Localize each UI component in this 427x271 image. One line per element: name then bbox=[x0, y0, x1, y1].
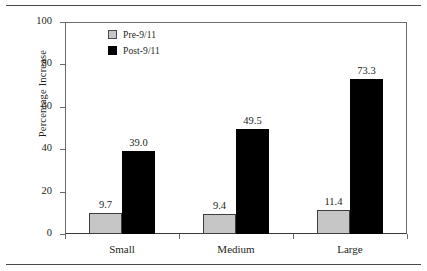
bar-value-label: 49.5 bbox=[228, 115, 278, 126]
y-tick-mark bbox=[60, 107, 65, 108]
legend-label-post: Post-9/11 bbox=[123, 46, 160, 56]
y-tick-label: 80 bbox=[42, 57, 53, 68]
y-tick-mark bbox=[60, 64, 65, 65]
y-tick-label: 40 bbox=[42, 142, 53, 153]
y-tick-mark bbox=[60, 22, 65, 23]
x-tick-mark bbox=[293, 234, 294, 239]
legend-item-post: Post-9/11 bbox=[108, 44, 160, 57]
x-category-label-medium: Medium bbox=[186, 243, 286, 255]
legend-item-pre: Pre-9/11 bbox=[108, 28, 160, 41]
bar-value-label: 39.0 bbox=[114, 137, 164, 148]
bar-large-pre bbox=[317, 210, 350, 234]
x-category-label-small: Small bbox=[72, 243, 172, 255]
bar-small-pre bbox=[89, 213, 122, 234]
bar-large-post bbox=[350, 79, 383, 234]
bar-value-label: 73.3 bbox=[342, 65, 392, 76]
x-category-label-large: Large bbox=[300, 243, 400, 255]
bottom-horizontal-rule bbox=[6, 264, 421, 265]
x-tick-mark bbox=[407, 234, 408, 239]
x-tick-mark bbox=[179, 234, 180, 239]
y-tick-mark bbox=[60, 192, 65, 193]
gray-swatch-icon bbox=[108, 30, 117, 39]
legend-label-pre: Pre-9/11 bbox=[123, 30, 156, 40]
y-tick-label: 100 bbox=[36, 15, 52, 26]
figure-container: Percentage Increase 020406080100 SmallMe… bbox=[0, 0, 427, 271]
y-tick-mark bbox=[60, 149, 65, 150]
y-tick-label: 20 bbox=[42, 185, 53, 196]
y-tick-label: 0 bbox=[47, 227, 52, 238]
black-swatch-icon bbox=[108, 46, 117, 55]
bar-medium-pre bbox=[203, 214, 236, 234]
top-horizontal-rule bbox=[6, 5, 421, 6]
bar-small-post bbox=[122, 151, 155, 234]
y-tick-label: 60 bbox=[42, 100, 53, 111]
chart-legend: Pre-9/11 Post-9/11 bbox=[108, 28, 160, 60]
bar-medium-post bbox=[236, 129, 269, 234]
x-tick-mark bbox=[65, 234, 66, 239]
